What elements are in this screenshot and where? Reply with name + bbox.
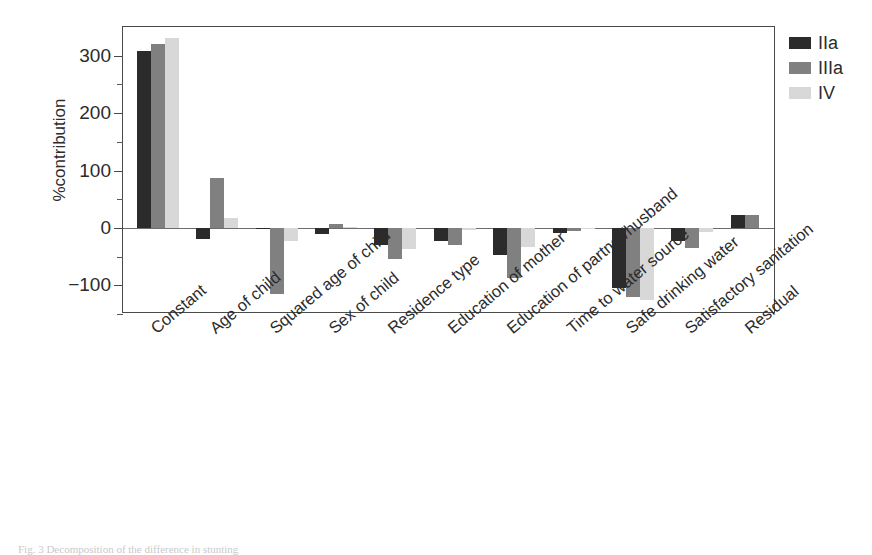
legend-label: IV <box>818 84 835 102</box>
bar-iia[interactable] <box>315 228 329 234</box>
y-tick-major <box>114 228 123 229</box>
y-tick-label: 100 <box>79 160 111 182</box>
bar-iia[interactable] <box>196 228 210 239</box>
bar-iv[interactable] <box>224 218 238 228</box>
y-tick-label: −100 <box>68 274 111 296</box>
bar-iiia[interactable] <box>745 215 759 228</box>
bar-iv[interactable] <box>402 228 416 249</box>
bar-iiia[interactable] <box>210 178 224 228</box>
y-tick-label: 0 <box>100 217 111 239</box>
legend-swatch-icon <box>789 37 811 49</box>
bar-iia[interactable] <box>256 228 270 229</box>
bar-iia[interactable] <box>731 215 745 228</box>
bar-iv[interactable] <box>284 228 298 241</box>
figure-caption: Fig. 3 Decomposition of the difference i… <box>18 543 238 555</box>
bar-iv[interactable] <box>521 228 535 247</box>
bar-iv[interactable] <box>165 38 179 227</box>
bar-iiia[interactable] <box>448 228 462 245</box>
legend-item[interactable]: IIIa <box>789 57 869 79</box>
legend-label: IIIa <box>818 59 843 77</box>
y-tick-major <box>114 171 123 172</box>
y-tick-major <box>114 56 123 57</box>
bar-iv[interactable] <box>699 228 713 233</box>
y-tick-label: 300 <box>79 45 111 67</box>
bar-iia[interactable] <box>434 228 448 241</box>
bar-iiia[interactable] <box>151 44 165 228</box>
y-tick-major <box>114 285 123 286</box>
bar-group <box>123 27 182 312</box>
legend-item[interactable]: IV <box>789 82 869 104</box>
y-tick-label: 200 <box>79 102 111 124</box>
bar-iv[interactable] <box>462 228 476 230</box>
y-tick-major <box>114 113 123 114</box>
legend-swatch-icon <box>789 87 811 99</box>
bar-iiia[interactable] <box>388 228 402 260</box>
bar-iiia[interactable] <box>329 224 343 227</box>
bar-group <box>182 27 241 312</box>
bar-iv[interactable] <box>343 227 357 228</box>
y-tick-minor <box>117 314 123 315</box>
bar-iia[interactable] <box>493 228 507 256</box>
y-axis-title: %contribution <box>50 60 70 240</box>
legend-item[interactable]: IIa <box>789 32 869 54</box>
legend-label: IIa <box>818 34 838 52</box>
legend: IIaIIIaIV <box>789 32 869 107</box>
bar-iiia[interactable] <box>567 228 581 231</box>
bar-iia[interactable] <box>137 51 151 228</box>
bar-iv[interactable] <box>581 228 595 229</box>
legend-swatch-icon <box>789 62 811 74</box>
